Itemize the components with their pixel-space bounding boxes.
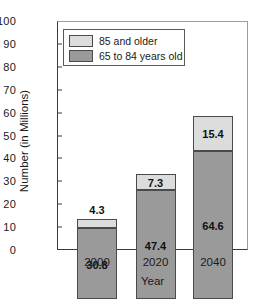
- bar-value-85-and-older-2000: 4.3: [73, 204, 121, 216]
- y-tick-mark-50: [57, 135, 62, 136]
- legend-swatch-65-to-84: [69, 50, 93, 62]
- y-tick-label-100: 100: [0, 15, 16, 27]
- y-tick-mark-70: [57, 89, 62, 90]
- legend-item-65-to-84: 65 to 84 years old: [69, 49, 179, 63]
- y-tick-mark-80: [57, 66, 62, 67]
- y-tick-label-20: 20: [0, 198, 16, 210]
- bar-value-65-to-84-2020: 47.4: [136, 240, 176, 252]
- y-tick-label-10: 10: [0, 221, 16, 233]
- y-tick-label-80: 80: [0, 61, 16, 73]
- y-tick-label-0: 0: [0, 244, 16, 256]
- y-tick-label-50: 50: [0, 130, 16, 142]
- y-tick-label-40: 40: [0, 152, 16, 164]
- bar-value-85-and-older-2040: 15.4: [193, 128, 233, 140]
- bar-segment-85-and-older-2000: [77, 219, 117, 229]
- legend-label-65-to-84: 65 to 84 years old: [99, 50, 182, 62]
- stacked-bar-chart: Number (in Millions) 1009080706050403020…: [0, 0, 268, 299]
- y-axis-title: Number (in Millions): [18, 56, 30, 226]
- y-tick-mark-30: [57, 181, 62, 182]
- bar-value-65-to-84-2040: 64.6: [193, 220, 233, 232]
- legend-label-85-and-older: 85 and older: [99, 35, 157, 47]
- legend: 85 and older 65 to 84 years old: [63, 29, 185, 66]
- bar-value-85-and-older-2020: 7.3: [136, 177, 176, 189]
- legend-swatch-85-and-older: [69, 35, 93, 47]
- y-tick-mark-40: [57, 158, 62, 159]
- y-tick-label-60: 60: [0, 107, 16, 119]
- y-tick-label-30: 30: [0, 175, 16, 187]
- y-tick-mark-20: [57, 204, 62, 205]
- y-tick-mark-90: [57, 43, 62, 44]
- legend-item-85-and-older: 85 and older: [69, 34, 179, 48]
- x-tick-label-2040: 2040: [178, 256, 248, 268]
- y-tick-label-70: 70: [0, 84, 16, 96]
- y-tick-label-90: 90: [0, 38, 16, 50]
- x-axis-title: Year: [57, 275, 248, 287]
- y-tick-mark-10: [57, 227, 62, 228]
- y-tick-mark-60: [57, 112, 62, 113]
